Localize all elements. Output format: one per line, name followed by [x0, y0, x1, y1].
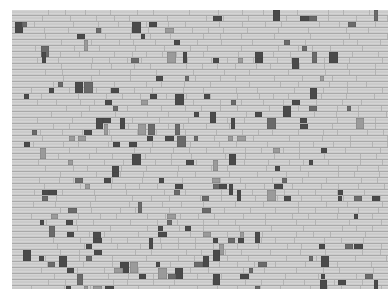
- weft-segment: [251, 208, 276, 213]
- weft-segment: [38, 100, 57, 105]
- weft-segment: [20, 274, 55, 279]
- weft-segment: [299, 202, 327, 207]
- weft-segment: [226, 250, 242, 255]
- weft-segment: [111, 10, 138, 15]
- weft-segment: [162, 82, 185, 87]
- weft-segment: [275, 76, 303, 81]
- dark-float: [354, 214, 358, 219]
- weft-segment: [262, 280, 284, 285]
- dark-float: [84, 40, 88, 51]
- weft-segment: [78, 226, 111, 231]
- weft-segment: [355, 172, 380, 177]
- dark-float: [309, 16, 317, 21]
- dark-float: [51, 214, 58, 219]
- dark-float: [194, 136, 198, 141]
- weft-segment: [238, 262, 255, 267]
- weft-segment: [151, 64, 187, 69]
- weft-segment: [242, 34, 275, 39]
- weft-segment: [100, 46, 136, 51]
- dark-float: [302, 46, 307, 51]
- weft-segment: [303, 178, 327, 183]
- weft-segment: [28, 208, 61, 213]
- weft-segment: [364, 238, 388, 243]
- weft-segment: [221, 106, 238, 111]
- dark-float: [24, 94, 29, 99]
- weft-segment: [359, 208, 379, 213]
- weft-segment: [43, 148, 70, 153]
- weft-segment: [347, 94, 375, 99]
- weft-segment: [237, 88, 258, 93]
- dark-float: [175, 94, 184, 105]
- weft-segment: [379, 52, 388, 57]
- dark-float: [95, 238, 102, 243]
- weft-segment: [240, 226, 272, 231]
- weft-segment: [359, 184, 385, 189]
- weft-segment: [182, 202, 204, 207]
- weft-segment: [177, 52, 204, 57]
- dark-float: [321, 274, 325, 279]
- weft-segment: [64, 142, 79, 147]
- weft-segment: [340, 22, 376, 27]
- weft-segment: [20, 160, 39, 165]
- weft-segment: [140, 184, 158, 189]
- dark-float: [249, 268, 253, 273]
- weft-segment: [30, 64, 62, 69]
- weft-segment: [377, 154, 388, 159]
- dark-float: [22, 22, 27, 27]
- weft-segment: [376, 124, 388, 129]
- weft-segment: [130, 16, 168, 21]
- dark-float: [292, 58, 299, 69]
- weft-segment: [100, 70, 131, 75]
- weft-segment: [97, 148, 135, 153]
- dark-float: [321, 256, 329, 267]
- weft-segment: [12, 184, 45, 189]
- weft-segment: [238, 244, 259, 249]
- dark-float: [42, 190, 49, 195]
- dark-float: [354, 196, 362, 201]
- weft-segment: [314, 232, 331, 237]
- weft-segment: [324, 148, 346, 153]
- dark-float: [210, 112, 216, 123]
- weft-segment: [300, 142, 314, 147]
- dark-float: [300, 118, 307, 123]
- weft-segment: [157, 130, 186, 135]
- weft-segment: [359, 112, 387, 117]
- weft-segment: [123, 94, 141, 99]
- weft-segment: [382, 220, 388, 225]
- weft-segment: [112, 64, 135, 69]
- weft-segment: [162, 106, 186, 111]
- dark-float: [275, 166, 280, 171]
- dark-float: [374, 10, 378, 21]
- weft-segment: [112, 100, 144, 105]
- weft-segment: [82, 112, 116, 117]
- dark-float: [175, 124, 180, 135]
- weft-segment: [29, 106, 67, 111]
- weft-segment: [358, 166, 379, 171]
- weft-segment: [242, 46, 279, 51]
- weft-segment: [148, 226, 180, 231]
- dark-float: [258, 262, 267, 267]
- weft-segment: [338, 130, 368, 135]
- weft-segment: [163, 178, 183, 183]
- weft-segment: [379, 166, 388, 171]
- dark-float: [203, 232, 211, 237]
- weft-segment: [67, 106, 90, 111]
- weft-segment: [161, 76, 196, 81]
- weft-segment: [351, 142, 373, 147]
- weft-segment: [351, 136, 388, 141]
- weft-segment: [244, 214, 266, 219]
- weft-segment: [198, 40, 222, 45]
- weft-segment: [199, 214, 215, 219]
- weft-segment: [299, 208, 316, 213]
- weft-segment: [257, 64, 271, 69]
- weft-segment: [297, 220, 316, 225]
- weft-segment: [342, 238, 364, 243]
- dark-float: [345, 244, 353, 249]
- weft-segment: [281, 82, 299, 87]
- dark-float: [177, 136, 186, 147]
- weft-segment: [133, 118, 160, 123]
- dark-float: [141, 100, 148, 105]
- dark-float: [158, 226, 163, 231]
- weft-segment: [46, 34, 81, 39]
- weft-segment: [383, 58, 388, 63]
